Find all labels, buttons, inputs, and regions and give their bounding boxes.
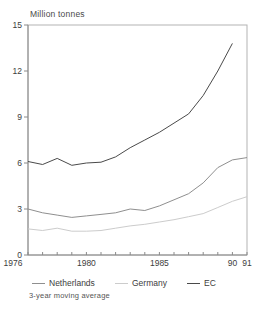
x-tick-label: 90: [228, 258, 238, 268]
chart-figure: Million tonnes 036912151976198019859091 …: [0, 0, 264, 313]
legend-label-netherlands: Netherlands: [49, 278, 95, 288]
chart-footnote: 3-year moving average: [29, 291, 110, 300]
plot-frame: [28, 25, 247, 255]
series-line-germany: [28, 197, 247, 232]
legend-label-ec: EC: [204, 278, 216, 288]
series-line-netherlands: [28, 158, 247, 218]
legend-item-germany: Germany: [115, 278, 167, 288]
netherlands-line-swatch: [32, 283, 45, 284]
series-line-ec: [28, 43, 232, 165]
y-tick-label: 15: [13, 20, 23, 30]
x-tick-label: 1976: [4, 258, 23, 268]
germany-line-swatch: [115, 283, 128, 284]
y-tick-label: 3: [17, 204, 22, 214]
x-tick-label: 91: [242, 258, 252, 268]
y-tick-label: 6: [17, 158, 22, 168]
legend-label-germany: Germany: [132, 278, 167, 288]
y-tick-label: 12: [13, 66, 23, 76]
y-tick-label: 9: [17, 112, 22, 122]
legend-item-ec: EC: [187, 278, 216, 288]
plot-area: 036912151976198019859091: [0, 0, 264, 313]
x-tick-label: 1985: [150, 258, 169, 268]
legend-item-netherlands: Netherlands: [32, 278, 95, 288]
ec-line-swatch: [187, 283, 200, 284]
x-tick-label: 1980: [77, 258, 96, 268]
